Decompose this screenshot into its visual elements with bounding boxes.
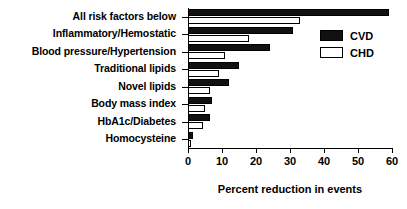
category-label: All risk factors below (73, 11, 176, 22)
bar-cvd-4 (188, 79, 229, 86)
bar-cvd-1 (188, 27, 293, 34)
bar-chd-0 (188, 17, 300, 24)
category-label: Traditional lipids (94, 63, 176, 74)
x-axis-tick-label: 40 (318, 155, 330, 167)
category-label: Homocysteine (105, 133, 176, 144)
x-axis-tick-label: 50 (352, 155, 364, 167)
category-axis: All risk factors belowInflammatory/Hemos… (0, 8, 182, 148)
chart-legend: CVDCHD (320, 27, 374, 61)
bar-chd-6 (188, 122, 203, 129)
legend-item-chd: CHD (320, 44, 374, 61)
category-label: Novel lipids (118, 81, 176, 92)
legend-item-cvd: CVD (320, 27, 374, 44)
bar-cvd-0 (188, 9, 389, 16)
bar-cvd-2 (188, 44, 270, 51)
bar-cvd-7 (188, 132, 193, 139)
x-axis-tick-label: 20 (250, 155, 262, 167)
x-axis-tick-label: 0 (185, 155, 191, 167)
bar-chart: All risk factors belowInflammatory/Hemos… (0, 0, 407, 209)
x-axis-tick (324, 148, 325, 153)
x-axis-tick-label: 30 (284, 155, 296, 167)
bar-chd-4 (188, 87, 210, 94)
legend-label: CVD (350, 30, 373, 42)
x-axis-tick (358, 148, 359, 153)
category-label: HbA1c/Diabetes (97, 116, 176, 127)
category-label: Blood pressure/Hypertension (32, 46, 176, 57)
x-axis-tick (188, 148, 189, 153)
bar-chd-3 (188, 70, 219, 77)
x-axis-tick-label: 60 (386, 155, 398, 167)
bar-chd-7 (188, 140, 191, 147)
x-axis-title: Percent reduction in events (188, 183, 392, 195)
category-label: Inflammatory/Hemostatic (53, 28, 176, 39)
bar-chd-5 (188, 105, 205, 112)
bar-cvd-5 (188, 97, 212, 104)
x-axis-tick (256, 148, 257, 153)
x-axis-tick (392, 148, 393, 153)
category-label: Body mass index (91, 98, 176, 109)
bar-cvd-3 (188, 62, 239, 69)
x-axis-tick (222, 148, 223, 153)
x-axis-tick (290, 148, 291, 153)
bar-cvd-6 (188, 114, 210, 121)
x-axis-tick-label: 10 (216, 155, 228, 167)
bar-chd-2 (188, 52, 225, 59)
legend-swatch-chd (320, 47, 343, 58)
legend-label: CHD (350, 47, 374, 59)
bar-chd-1 (188, 35, 249, 42)
legend-swatch-cvd (320, 30, 343, 41)
